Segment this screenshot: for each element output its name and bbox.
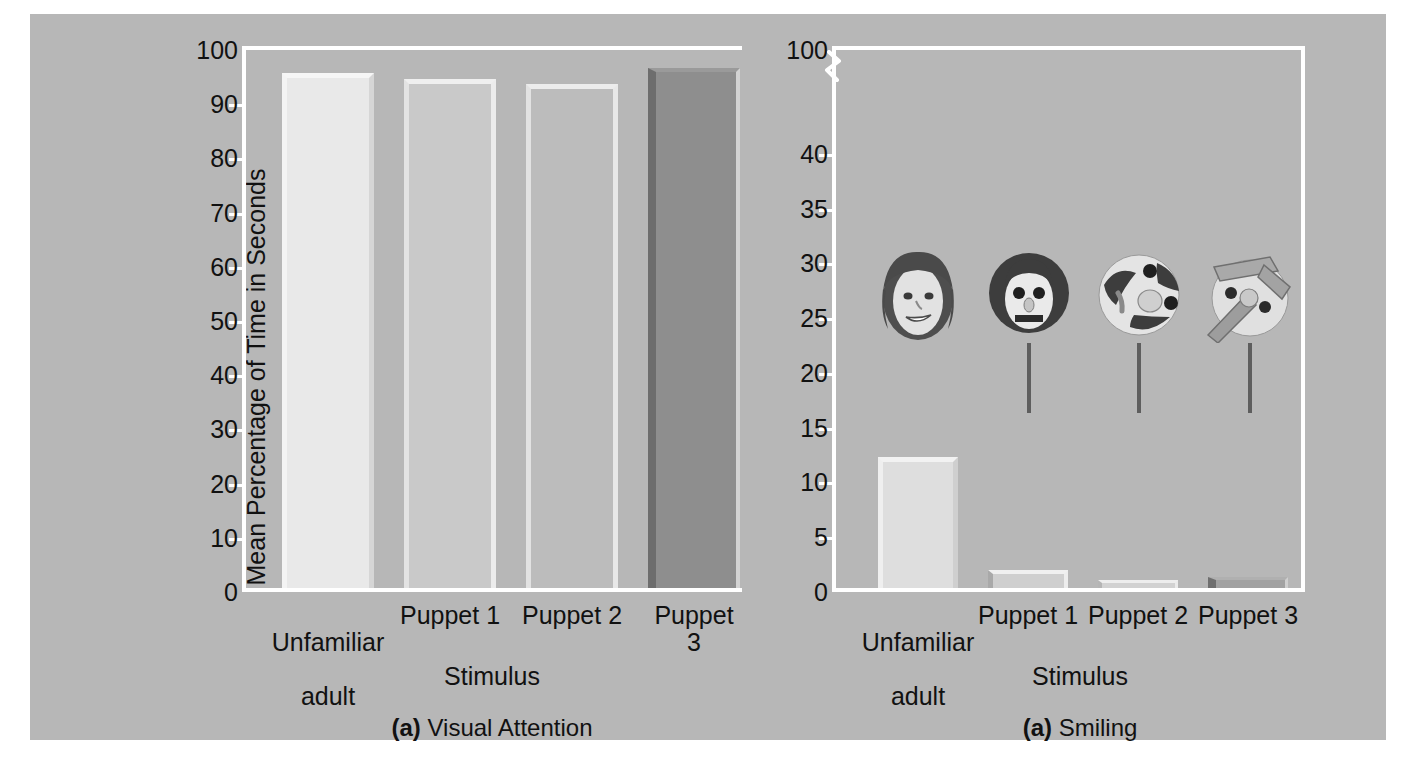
x-label-puppet-2: Puppet 2 (522, 602, 622, 629)
y-tick-label-0-smiling: 0 (814, 579, 828, 604)
puppet-3-stick (1248, 343, 1252, 413)
puppet-2-scrambled-face-icon (1094, 243, 1184, 343)
figure-panel: Mean Percentage of Time in Seconds 100 9… (30, 14, 1386, 740)
x-label-puppet-3: Puppet 3 (654, 602, 733, 656)
x-label-smiling-puppet-2: Puppet 2 (1088, 602, 1188, 629)
y-tick-label-100: 100 (196, 38, 238, 63)
y-tick-label-30-smiling: 30 (800, 251, 828, 276)
stimulus-unfamiliar-adult (870, 243, 966, 348)
plot-frame-visual-attention: 100 90 80 70 60 50 (242, 46, 742, 592)
y-tick-label-30: 30 (210, 417, 238, 442)
bar-puppet-2 (526, 84, 618, 588)
y-tick-label-40: 40 (210, 363, 238, 388)
puppet-1-normal-face-icon (984, 243, 1074, 343)
chart-visual-attention: Mean Percentage of Time in Seconds 100 9… (30, 14, 730, 740)
y-tick-label-20-smiling: 20 (800, 360, 828, 385)
x-label-smiling-puppet-3: Puppet 3 (1198, 602, 1298, 629)
puppet-3-featureless-face-icon (1202, 243, 1298, 343)
y-tick-label-5-smiling: 5 (814, 524, 828, 549)
bar-unfamiliar-adult (282, 73, 374, 588)
x-label-smiling-puppet-1: Puppet 1 (978, 602, 1078, 629)
y-tick-label-15-smiling: 15 (800, 415, 828, 440)
panel-letter-a-left: (a) (391, 714, 420, 741)
y-tick-label-25-smiling: 25 (800, 306, 828, 331)
bar-puppet-1 (404, 79, 496, 589)
y-tick-label-35-smiling: 35 (800, 196, 828, 221)
panel-caption-smiling: (a) Smiling (1023, 714, 1138, 742)
x-label-smiling-unfamiliar-adult: Unfamiliar adult (862, 602, 975, 737)
y-tick-label-60: 60 (210, 254, 238, 279)
stimulus-puppet-3 (1202, 243, 1298, 413)
panel-caption-visual-attention: (a) Visual Attention (391, 714, 592, 742)
bar-smiling-puppet-3 (1208, 577, 1288, 588)
y-tick-label-10-smiling: 10 (800, 470, 828, 495)
stimulus-puppet-2 (1094, 243, 1184, 413)
y-tick-label-90: 90 (210, 92, 238, 117)
bar-smiling-unfamiliar-adult (878, 457, 958, 588)
panel-title-visual-attention: Visual Attention (428, 714, 593, 741)
plot-frame-smiling: 100 40 35 30 25 (832, 46, 1305, 592)
y-tick-label-20: 20 (210, 471, 238, 496)
stimulus-puppet-1 (984, 243, 1074, 413)
x-axis-title-visual-attention: Stimulus (444, 662, 540, 691)
y-tick-label-40-smiling: 40 (800, 142, 828, 167)
x-label-unfamiliar-adult: Unfamiliar adult (272, 602, 385, 737)
x-axis-title-smiling: Stimulus (1032, 662, 1128, 691)
x-label-puppet-1: Puppet 1 (400, 602, 500, 629)
y-tick-label-50: 50 (210, 309, 238, 334)
bar-smiling-puppet-1 (988, 570, 1068, 588)
y-tick-label-0: 0 (224, 580, 238, 605)
puppet-1-stick (1027, 343, 1031, 413)
y-tick-label-10: 10 (210, 525, 238, 550)
bars-layer-visual-attention (246, 50, 742, 588)
puppet-2-stick (1137, 343, 1141, 413)
y-tick-label-80: 80 (210, 146, 238, 171)
bar-smiling-puppet-2 (1098, 580, 1178, 588)
y-tick-label-70: 70 (210, 200, 238, 225)
unfamiliar-adult-face-icon (870, 243, 966, 348)
bar-puppet-3 (648, 68, 740, 588)
panel-letter-a-right: (a) (1023, 714, 1052, 741)
panel-title-smiling: Smiling (1059, 714, 1138, 741)
chart-smiling: 100 40 35 30 25 (730, 14, 1386, 740)
y-tick-label-100-smiling: 100 (786, 38, 828, 63)
